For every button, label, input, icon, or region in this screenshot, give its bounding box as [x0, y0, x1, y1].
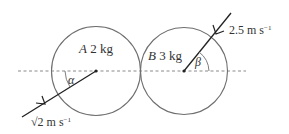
speed-b-label: 2.5 m s−1 [229, 24, 271, 36]
sphere-a-mass: 2 kg [90, 41, 113, 56]
speed-a-unit: m s [47, 115, 64, 129]
speed-b-exp: −1 [264, 24, 271, 32]
speed-a-exp: −1 [64, 116, 71, 124]
collision-diagram: A 2 kg B 3 kg α β √2 m s−1 2.5 m s−1 [0, 0, 289, 134]
speed-a-value: √2 [31, 115, 44, 129]
speed-a-label: √2 m s−1 [31, 116, 71, 128]
diagram-graphics [0, 0, 289, 134]
angle-beta-label: β [195, 56, 201, 68]
sphere-b-name: B [148, 48, 156, 63]
sphere-b-mass: 3 kg [159, 48, 182, 63]
velocity-line-a [22, 71, 96, 117]
sphere-a-label: A 2 kg [79, 42, 113, 55]
speed-b-value: 2.5 [229, 23, 244, 37]
sphere-a-name: A [79, 41, 87, 56]
sphere-b-label: B 3 kg [148, 49, 182, 62]
speed-b-unit: m s [247, 23, 264, 37]
angle-alpha-label: α [68, 74, 74, 86]
